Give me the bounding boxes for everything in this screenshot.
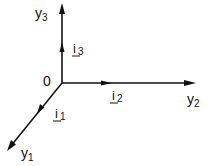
svg-text:i3: i3 bbox=[73, 41, 84, 57]
origin-label: 0 bbox=[43, 73, 51, 89]
axis-y1 bbox=[7, 83, 62, 151]
axis-y2 bbox=[62, 80, 196, 86]
axis-y3 bbox=[59, 3, 65, 83]
arrowhead-icon bbox=[59, 3, 65, 14]
unit-vector-arrow-icon bbox=[60, 42, 65, 52]
y1-label: y1 bbox=[21, 145, 34, 163]
svg-text:i1: i1 bbox=[55, 106, 66, 122]
coordinate-axes-diagram: 0 y3 i3 y2 i2 y1 i1 bbox=[0, 0, 211, 166]
svg-text:i2: i2 bbox=[112, 88, 123, 104]
arrowhead-icon bbox=[184, 80, 196, 86]
i3-label: i3 bbox=[72, 41, 84, 57]
y3-label: y3 bbox=[35, 5, 48, 23]
i1-label: i1 bbox=[53, 106, 66, 122]
i2-label: i2 bbox=[110, 88, 123, 104]
unit-vector-arrow-icon bbox=[101, 81, 112, 86]
y2-label: y2 bbox=[187, 91, 200, 109]
